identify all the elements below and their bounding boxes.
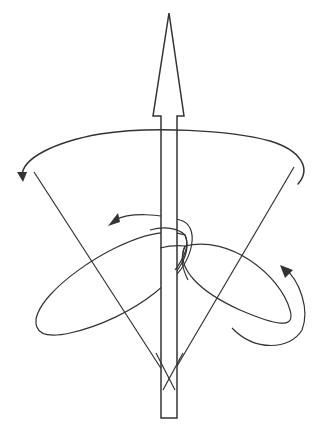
lower-right-curl-arrow: [232, 265, 305, 346]
precession-diagram: [0, 0, 320, 431]
precession-arrowhead-icon: [17, 172, 27, 182]
cone-right-line: [163, 167, 294, 390]
spin-curl-arrowhead-icon: [108, 213, 120, 226]
lower-right-arrowhead-icon: [280, 265, 293, 278]
spin-curl-arrow: [108, 213, 192, 283]
cone-left-line: [34, 172, 175, 390]
right-ellipse: [183, 244, 291, 323]
